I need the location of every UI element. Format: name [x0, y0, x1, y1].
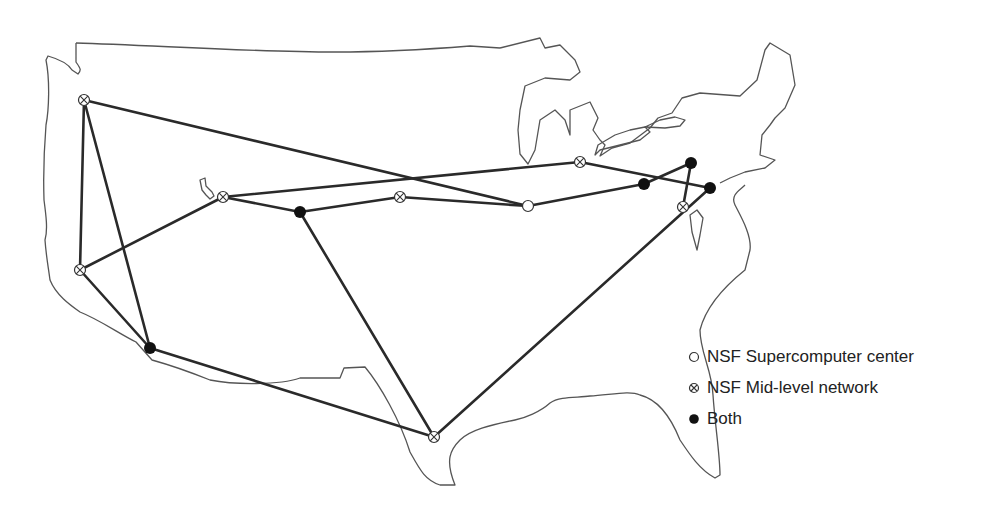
legend-item-supercomputer: NSF Supercomputer center — [688, 341, 914, 372]
network-link — [434, 188, 710, 437]
legend-label: NSF Mid-level network — [707, 378, 878, 398]
network-link — [80, 100, 84, 270]
network-link — [80, 197, 223, 270]
great-salt-lake-outline — [200, 178, 214, 199]
legend-item-both: Both — [688, 403, 914, 434]
lake-erie-outline — [595, 127, 650, 155]
legend-item-midlevel: NSF Mid-level network — [688, 372, 914, 403]
node-both-icon — [294, 206, 306, 218]
circle-x-icon — [688, 382, 700, 394]
network-link — [223, 197, 300, 212]
network-link — [150, 348, 434, 437]
network-link — [300, 212, 434, 437]
network-link — [644, 163, 691, 184]
node-midlevel-icon — [429, 432, 440, 443]
node-midlevel-icon — [395, 192, 406, 203]
chesapeake-outline — [690, 210, 703, 250]
node-both-icon — [685, 157, 697, 169]
network-link — [300, 197, 400, 212]
network-link — [528, 184, 644, 206]
node-both-icon — [638, 178, 650, 190]
great-lakes-outline — [500, 38, 795, 183]
node-both-icon — [144, 342, 156, 354]
filled-circle-icon — [688, 413, 700, 425]
network-map — [0, 0, 996, 513]
node-midlevel-icon — [79, 95, 90, 106]
open-circle-icon — [688, 351, 700, 363]
node-midlevel-icon — [678, 202, 689, 213]
node-midlevel-icon — [75, 265, 86, 276]
us-outline — [44, 38, 795, 485]
node-both-icon — [704, 182, 716, 194]
node-midlevel-icon — [218, 192, 229, 203]
us-border-outline — [44, 43, 751, 485]
node-supercomputer-icon — [523, 201, 534, 212]
node-midlevel-icon — [575, 157, 586, 168]
legend-label: Both — [707, 409, 742, 429]
network-links — [80, 100, 710, 437]
legend: NSF Supercomputer center NSF Mid-level n… — [688, 341, 914, 434]
legend-label: NSF Supercomputer center — [707, 347, 914, 367]
northern-border — [76, 43, 500, 52]
